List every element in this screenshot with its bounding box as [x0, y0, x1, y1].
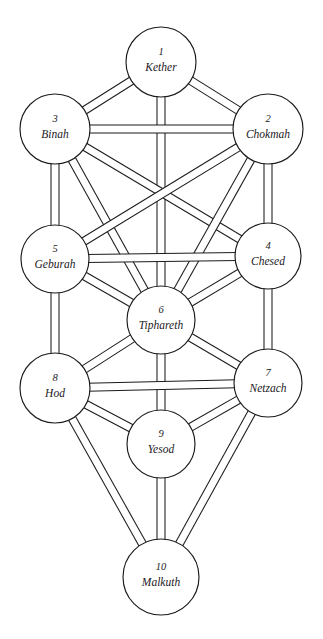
path-netzach-to-yesod: [186, 395, 243, 432]
sephirah-yesod-label: Yesod: [148, 443, 175, 455]
sephirah-malkuth-label: Malkuth: [141, 576, 181, 588]
sephirah-hod-label: Hod: [44, 387, 65, 399]
sephirah-chokmah[interactable]: 2Chokmah: [233, 94, 303, 164]
sephirah-chesed-number: 4: [265, 240, 271, 251]
sephirah-netzach-number: 7: [265, 367, 271, 378]
sephirah-binah-number: 3: [51, 113, 57, 124]
path-geburah-to-tiphareth: [80, 271, 136, 308]
path-tiphareth-to-netzach: [186, 332, 244, 370]
sephirah-netzach-label: Netzach: [248, 382, 286, 394]
sephirah-netzach[interactable]: 7Netzach: [234, 349, 302, 417]
path-chesed-to-netzach: [264, 286, 272, 352]
sephirah-kether[interactable]: 1Kether: [126, 27, 196, 97]
path-chesed-to-tiphareth: [186, 268, 245, 308]
path-geburah-to-hod: [51, 290, 59, 356]
sephirah-yesod-number: 9: [158, 428, 164, 439]
sephirah-chesed-label: Chesed: [251, 255, 285, 267]
sephirah-tiphareth-label: Tiphareth: [139, 319, 184, 332]
path-tiphareth-to-hod: [80, 333, 137, 374]
sephirah-chokmah-number: 2: [265, 113, 271, 124]
sephirah-chokmah-label: Chokmah: [246, 128, 290, 140]
sephirah-tiphareth-number: 6: [158, 304, 164, 315]
sephirah-geburah-number: 5: [52, 243, 57, 254]
sephirah-malkuth[interactable]: 10Malkuth: [123, 539, 199, 615]
tree-of-life-diagram: 1Kether2Chokmah3Binah4Chesed5Geburah6Tip…: [0, 0, 323, 639]
path-geburah-to-chesed: [86, 252, 238, 262]
sephirah-kether-label: Kether: [144, 61, 177, 73]
path-kether-to-binah: [80, 76, 136, 116]
sephirah-kether-number: 1: [158, 46, 163, 57]
sephirah-hod-number: 8: [52, 372, 58, 383]
sephirah-yesod[interactable]: 9Yesod: [127, 410, 195, 478]
sephirah-geburah[interactable]: 5Geburah: [21, 225, 89, 293]
sephirah-binah[interactable]: 3Binah: [20, 94, 90, 164]
sephirah-chesed[interactable]: 4Chesed: [235, 223, 301, 289]
path-binah-to-geburah: [51, 161, 59, 228]
path-netzach-to-hod: [87, 380, 237, 392]
sephirah-geburah-label: Geburah: [35, 258, 76, 270]
sephirah-hod[interactable]: 8Hod: [20, 353, 90, 423]
sephirah-binah-label: Binah: [41, 128, 69, 140]
sephirah-tiphareth[interactable]: 6Tiphareth: [127, 286, 195, 354]
path-binah-to-chokmah: [87, 125, 236, 133]
path-chokmah-to-chesed: [264, 161, 272, 226]
path-kether-to-chokmah: [186, 76, 243, 116]
path-yesod-to-malkuth: [157, 475, 165, 542]
path-hod-to-yesod: [81, 399, 135, 433]
sephirah-malkuth-number: 10: [156, 561, 167, 572]
tree-of-life-canvas: 1Kether2Chokmah3Binah4Chesed5Geburah6Tip…: [0, 0, 323, 639]
